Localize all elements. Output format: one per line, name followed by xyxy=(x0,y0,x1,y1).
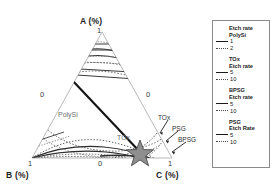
legend-group: BPSGEtch rate510 xyxy=(216,87,266,114)
legend-group: PSGEtch Rate510 xyxy=(216,119,266,146)
legend-entry-value: 2 xyxy=(230,45,233,52)
axis-label-a: A (%) xyxy=(80,16,102,26)
legend-entry[interactable]: 5 xyxy=(216,132,266,139)
legend-entry-value: 5 xyxy=(230,101,233,108)
tick-bottom-left: 1 xyxy=(28,159,32,168)
axis-label-b: B (%) xyxy=(6,170,29,180)
legend-group-subtitle: Etch rate xyxy=(216,94,266,101)
annotation-tox: TOx xyxy=(158,114,170,121)
legend-group-subtitle: PolySi xyxy=(216,32,266,39)
legend-entry-value: 10 xyxy=(230,108,236,115)
legend-group-subtitle: Etch Rate xyxy=(216,125,266,132)
legend-entry-value: 1 xyxy=(230,38,233,45)
tick-left-mid: 0 xyxy=(40,90,44,99)
legend-group-title: PSG xyxy=(216,119,266,126)
legend-group-subtitle: Etch rate xyxy=(216,63,266,70)
legend-entry[interactable]: 10 xyxy=(216,139,266,146)
tick-bottom-right: 1 xyxy=(168,159,172,168)
tick-right-mid: 0 xyxy=(146,90,150,99)
legend-entry[interactable]: 5 xyxy=(216,69,266,76)
legend-group-title: Etch rate xyxy=(216,25,266,32)
legend-entry-value: 5 xyxy=(230,132,233,139)
legend-entry[interactable]: 10 xyxy=(216,76,266,83)
legend-box: Etch ratePolySi12TOxEtch rate510BPSGEtch… xyxy=(212,20,270,168)
ternary-etch-rate-figure: A (%) 1 B (%) 1 C (%) 1 0 0 0 PolySi TOx… xyxy=(0,0,274,188)
ternary-plot: A (%) 1 B (%) 1 C (%) 1 0 0 0 PolySi TOx… xyxy=(0,0,208,188)
legend-entry-value: 5 xyxy=(230,69,233,76)
legend-group: Etch ratePolySi12 xyxy=(216,25,266,52)
triangle-frame xyxy=(32,32,172,158)
annotation-bpsg: BPSG xyxy=(178,136,196,143)
legend-entry[interactable]: 1 xyxy=(216,38,266,45)
legend-group-title: BPSG xyxy=(216,87,266,94)
tick-bottom-mid: 0 xyxy=(98,159,102,168)
legend-entry-value: 10 xyxy=(230,139,236,146)
legend-entry-value: 10 xyxy=(230,76,236,83)
legend-entry[interactable]: 10 xyxy=(216,108,266,115)
legend-entry[interactable]: 2 xyxy=(216,45,266,52)
legend-entry[interactable]: 5 xyxy=(216,101,266,108)
legend-group: TOxEtch rate510 xyxy=(216,56,266,83)
curve-label-polysi: PolySi xyxy=(58,111,78,118)
tick-apex-a: 1 xyxy=(97,26,101,35)
legend-group-title: TOx xyxy=(216,56,266,63)
curve-label-tox-inner: TOx xyxy=(117,134,130,141)
optimum-star-marker xyxy=(126,140,153,166)
axis-label-c: C (%) xyxy=(156,170,179,180)
annotation-psg: PSG xyxy=(172,125,186,132)
